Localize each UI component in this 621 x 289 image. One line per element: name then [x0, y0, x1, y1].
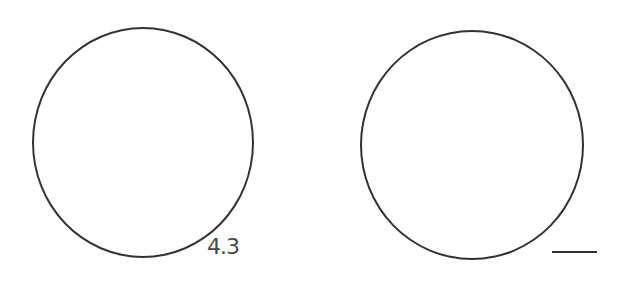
circle-figure-right [360, 30, 584, 260]
circle-figure-left [32, 27, 254, 258]
circle-label-left: 4.3 [207, 236, 239, 258]
answer-blank-line[interactable] [552, 251, 597, 253]
